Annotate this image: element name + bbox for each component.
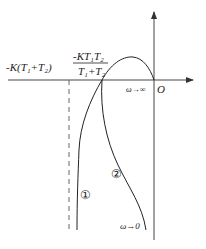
crossing-numerator: -KT₁T₂ <box>73 50 104 62</box>
crossing-denominator: T₁+T₂ <box>78 65 105 77</box>
omega-zero-label: ω→0 <box>120 221 140 231</box>
curve-2-label: ② <box>111 167 122 181</box>
nyquist-diagram: -K(T₁+T₂) -KT₁T₂ T₁+T₂ ω→∞ O ① ② ω→0 <box>0 0 206 249</box>
origin-label: O <box>157 83 165 95</box>
omega-infinity-label: ω→∞ <box>126 85 146 94</box>
curve-1 <box>77 80 102 230</box>
asymptote-label: -K(T₁+T₂) <box>6 61 52 74</box>
curve-2 <box>102 80 146 230</box>
curve-1-label: ① <box>80 188 91 202</box>
high-frequency-arc <box>102 57 154 80</box>
